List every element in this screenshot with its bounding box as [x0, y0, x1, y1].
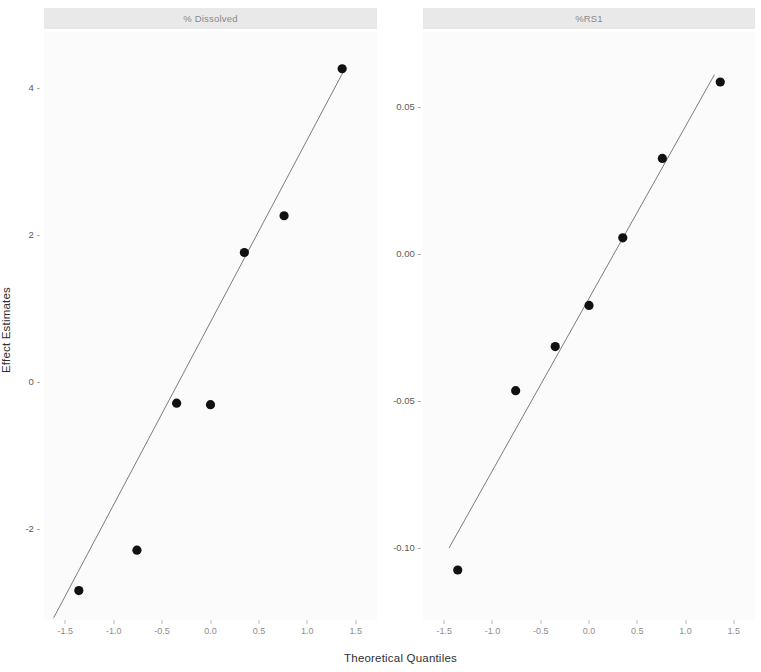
data-point	[453, 565, 462, 574]
data-point	[172, 399, 181, 408]
x-tick-mark	[637, 620, 638, 624]
qq-plot-figure: Effect Estimates 4-2-0--2- 0.05-0.00--0.…	[0, 0, 761, 672]
x-tick-mark	[540, 620, 541, 624]
x-tick-label: -1.0	[485, 626, 501, 636]
scatter-svg-dissolved	[44, 32, 377, 620]
data-point	[511, 386, 520, 395]
x-tick-mark	[685, 620, 686, 624]
data-point	[206, 400, 215, 409]
x-tick-label: 1.0	[679, 626, 692, 636]
y-axis-left: 4-2-0--2-	[0, 32, 40, 620]
plot-area-dissolved	[44, 32, 377, 620]
x-axis-title: Theoretical Quantiles	[46, 652, 755, 664]
y-tick-label: -0.05-	[393, 394, 421, 405]
data-point	[240, 248, 249, 257]
x-tick-label: 0.0	[583, 626, 596, 636]
x-tick-mark	[355, 620, 356, 624]
y-tick-label: 4-	[29, 82, 40, 93]
x-tick-mark	[733, 620, 734, 624]
data-point	[279, 211, 288, 220]
reference-line	[54, 70, 344, 618]
x-tick-label: -1.5	[58, 626, 74, 636]
data-point	[584, 301, 593, 310]
y-tick-mark: -	[415, 100, 421, 111]
y-tick-label: 0.00-	[396, 247, 421, 258]
x-tick-label: 1.5	[349, 626, 362, 636]
y-tick-mark: -	[415, 394, 421, 405]
y-tick-mark: -	[34, 376, 40, 387]
scatter-svg-rs1	[423, 32, 755, 620]
x-tick-label: -0.5	[154, 626, 170, 636]
x-tick-label: 0.5	[631, 626, 644, 636]
data-point	[338, 64, 347, 73]
x-axis-right: -1.5-1.0-0.50.00.51.01.5	[423, 626, 755, 646]
facet-strip-label-rs1: %RS1	[423, 8, 755, 29]
x-tick-label: -1.5	[436, 626, 452, 636]
x-tick-mark	[210, 620, 211, 624]
y-tick-mark: -	[34, 82, 40, 93]
x-axis-left: -1.5-1.0-0.50.00.51.01.5	[44, 626, 377, 646]
data-point	[74, 586, 83, 595]
x-tick-mark	[65, 620, 66, 624]
data-point	[716, 77, 725, 86]
x-tick-label: 1.0	[301, 626, 314, 636]
y-tick-mark: -	[34, 229, 40, 240]
reference-line	[449, 75, 714, 548]
x-tick-mark	[492, 620, 493, 624]
facet-panel-dissolved: % Dissolved	[44, 8, 377, 620]
data-point	[551, 342, 560, 351]
plot-area-rs1	[423, 32, 755, 620]
y-tick-label: 0.05-	[396, 100, 421, 111]
facet-panel-rs1: %RS1	[423, 8, 755, 620]
y-tick-label: 0-	[29, 376, 40, 387]
x-tick-label: -0.5	[533, 626, 549, 636]
y-tick-mark: -	[415, 247, 421, 258]
x-tick-label: -1.0	[106, 626, 122, 636]
y-tick-mark: -	[415, 541, 421, 552]
y-tick-label: -0.10-	[393, 541, 421, 552]
y-axis-right: 0.05-0.00--0.05--0.10-	[381, 32, 421, 620]
data-point	[618, 233, 627, 242]
y-tick-label: 2-	[29, 229, 40, 240]
x-tick-mark	[444, 620, 445, 624]
data-point	[658, 154, 667, 163]
x-tick-mark	[162, 620, 163, 624]
x-tick-label: 1.5	[728, 626, 741, 636]
x-tick-mark	[113, 620, 114, 624]
facet-strip-label-dissolved: % Dissolved	[44, 8, 377, 29]
x-tick-mark	[258, 620, 259, 624]
y-tick-label: -2-	[25, 523, 40, 534]
x-tick-label: 0.5	[253, 626, 266, 636]
x-tick-mark	[589, 620, 590, 624]
x-tick-label: 0.0	[204, 626, 217, 636]
data-point	[132, 546, 141, 555]
y-tick-mark: -	[34, 523, 40, 534]
x-tick-mark	[307, 620, 308, 624]
